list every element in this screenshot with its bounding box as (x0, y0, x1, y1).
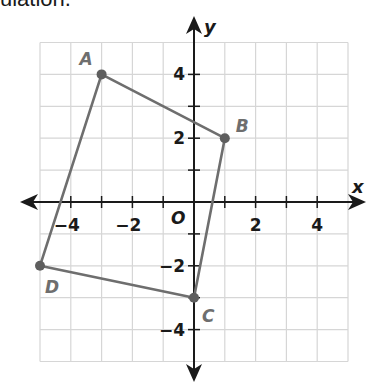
x-tick-label: 2 (250, 215, 262, 235)
vertex-label-a: A (78, 49, 93, 69)
vertex-label-d: D (45, 277, 59, 297)
x-tick-label: 4 (311, 215, 323, 235)
y-tick-label: −4 (159, 320, 185, 340)
y-tick-label: 4 (173, 64, 185, 84)
x-axis-label: x (351, 176, 365, 197)
vertex-label-b: B (236, 116, 249, 136)
origin-label: O (171, 208, 185, 228)
y-tick-label: −2 (159, 256, 185, 276)
axes (20, 16, 366, 382)
y-axis-label: y (204, 16, 217, 37)
x-tick-label: −4 (54, 215, 80, 235)
y-tick-label: 2 (173, 128, 185, 148)
vertex-labels: ABCD (45, 49, 249, 325)
x-tick-label: −2 (115, 215, 141, 235)
coordinate-plane: −4−22442−2−4 ABCD x y O (0, 0, 382, 391)
vertex-point-c (189, 293, 199, 303)
vertex-label-c: C (202, 306, 215, 326)
vertex-point-a (97, 69, 107, 79)
vertex-point-b (220, 133, 230, 143)
vertex-point-d (35, 261, 45, 271)
